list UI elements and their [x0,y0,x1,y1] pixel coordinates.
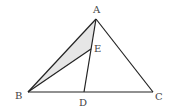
label-a: A [92,4,101,15]
label-d: D [79,97,87,108]
segment-be [28,49,91,92]
segment-ac [96,19,153,92]
label-b: B [15,90,22,101]
triangle-diagram: A E B D C [0,0,172,110]
label-c: C [155,91,163,102]
label-e: E [94,43,101,54]
